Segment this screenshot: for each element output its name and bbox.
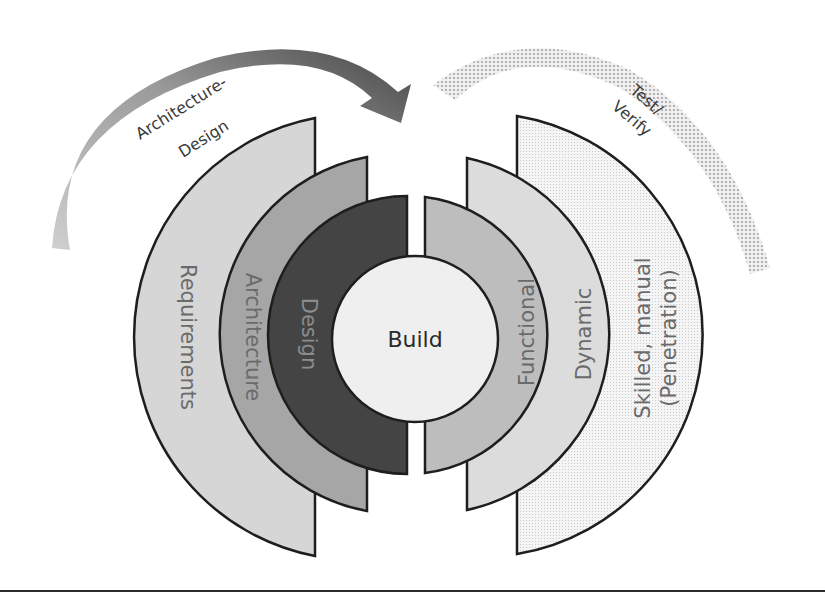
arrow-label-design: Design: [175, 116, 232, 161]
label-requirements: Requirements: [176, 264, 200, 410]
bottom-divider: [0, 590, 825, 592]
security-lifecycle-diagram: Architecture- Design Test/ Verify Build …: [0, 0, 825, 599]
build-core: Build: [332, 256, 498, 422]
label-design: Design: [297, 298, 321, 371]
build-label: Build: [387, 327, 442, 352]
label-penetration: (Penetration): [657, 269, 681, 406]
label-architecture: Architecture: [241, 273, 265, 402]
label-skilled-manual: Skilled, manual: [631, 257, 655, 418]
label-functional: Functional: [515, 278, 539, 386]
label-dynamic: Dynamic: [572, 288, 596, 381]
